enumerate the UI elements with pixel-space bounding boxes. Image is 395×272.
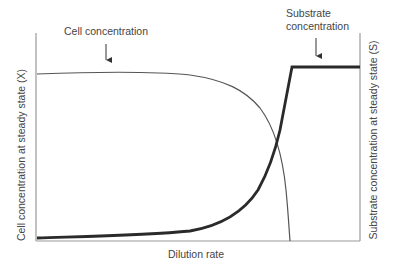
axes	[36, 33, 360, 241]
chemostat-diagram: Cell concentration Substrate concentrati…	[0, 0, 395, 272]
right-y-axis-label: Substrate concentration at steady state …	[367, 40, 379, 239]
x-axis-label: Dilution rate	[168, 248, 224, 260]
cell-concentration-annotation: Cell concentration	[64, 25, 148, 37]
cell-concentration-curve	[37, 72, 290, 241]
substrate-concentration-curve	[37, 67, 360, 238]
left-y-axis-label: Cell concentration at steady state (X)	[15, 69, 27, 241]
substrate-annotation-line2: concentration	[286, 20, 349, 32]
substrate-annotation-line1: Substrate	[286, 7, 331, 19]
